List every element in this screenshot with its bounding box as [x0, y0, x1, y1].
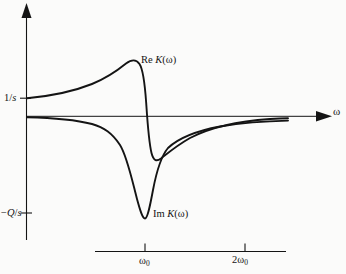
frequency-scale-bar	[95, 244, 286, 252]
curve-label-imaginary-part: Im K(ω)	[153, 209, 188, 220]
x-axis-label-omega: ω	[333, 106, 340, 117]
curve-imaginary-part	[27, 117, 288, 218]
vertical-axis	[22, 3, 32, 240]
curve-label-real-part: Re K(ω)	[141, 55, 176, 66]
resonant-response-figure: 1/s −Q/s Re K(ω) Im K(ω) ω ω0 2ω0	[0, 0, 346, 274]
curve-real-part	[27, 60, 288, 160]
horizontal-axis-arrowhead	[316, 111, 332, 122]
y-axis-label-one-over-s: 1/s	[4, 93, 16, 104]
y-axis-label-minus-q-over-s: −Q/s	[1, 208, 22, 219]
vertical-axis-arrowhead	[22, 3, 32, 18]
scale-label-omega0: ω0	[139, 256, 150, 267]
scale-label-2omega0: 2ω0	[232, 255, 248, 266]
plot-canvas	[0, 0, 346, 274]
